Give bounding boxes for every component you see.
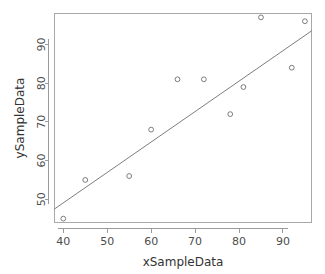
- x-tick-label: 80: [232, 235, 246, 248]
- data-point: [83, 178, 88, 183]
- plot-frame: [55, 14, 312, 223]
- x-axis-title: xSampleData: [143, 255, 224, 269]
- y-tick-label: 90: [35, 37, 48, 51]
- data-point: [241, 85, 246, 90]
- y-tick-label: 50: [35, 192, 48, 206]
- scatter-plot-figure: 405060708090xSampleData5060708090ySample…: [0, 0, 325, 274]
- x-tick-label: 60: [144, 235, 158, 248]
- y-tick-label: 70: [35, 115, 48, 129]
- data-point: [61, 216, 66, 221]
- x-tick-label: 40: [56, 235, 70, 248]
- plot-canvas: 405060708090xSampleData5060708090ySample…: [0, 0, 325, 274]
- data-point: [149, 127, 154, 132]
- x-tick-label: 70: [188, 235, 202, 248]
- data-point: [175, 77, 180, 82]
- data-point: [127, 174, 132, 179]
- y-tick-label: 60: [35, 154, 48, 168]
- regression-line: [55, 31, 312, 209]
- data-point-group: [61, 15, 307, 221]
- y-axis-title: ySampleData: [13, 78, 27, 159]
- x-axis: 405060708090xSampleData: [56, 229, 290, 270]
- y-axis: 5060708090ySampleData: [13, 37, 49, 206]
- x-tick-label: 50: [100, 235, 114, 248]
- y-tick-label: 80: [35, 76, 48, 90]
- data-point: [201, 77, 206, 82]
- x-tick-label: 90: [276, 235, 290, 248]
- data-point: [259, 15, 264, 20]
- data-point: [303, 19, 308, 24]
- data-point: [289, 65, 294, 70]
- data-point: [228, 112, 233, 117]
